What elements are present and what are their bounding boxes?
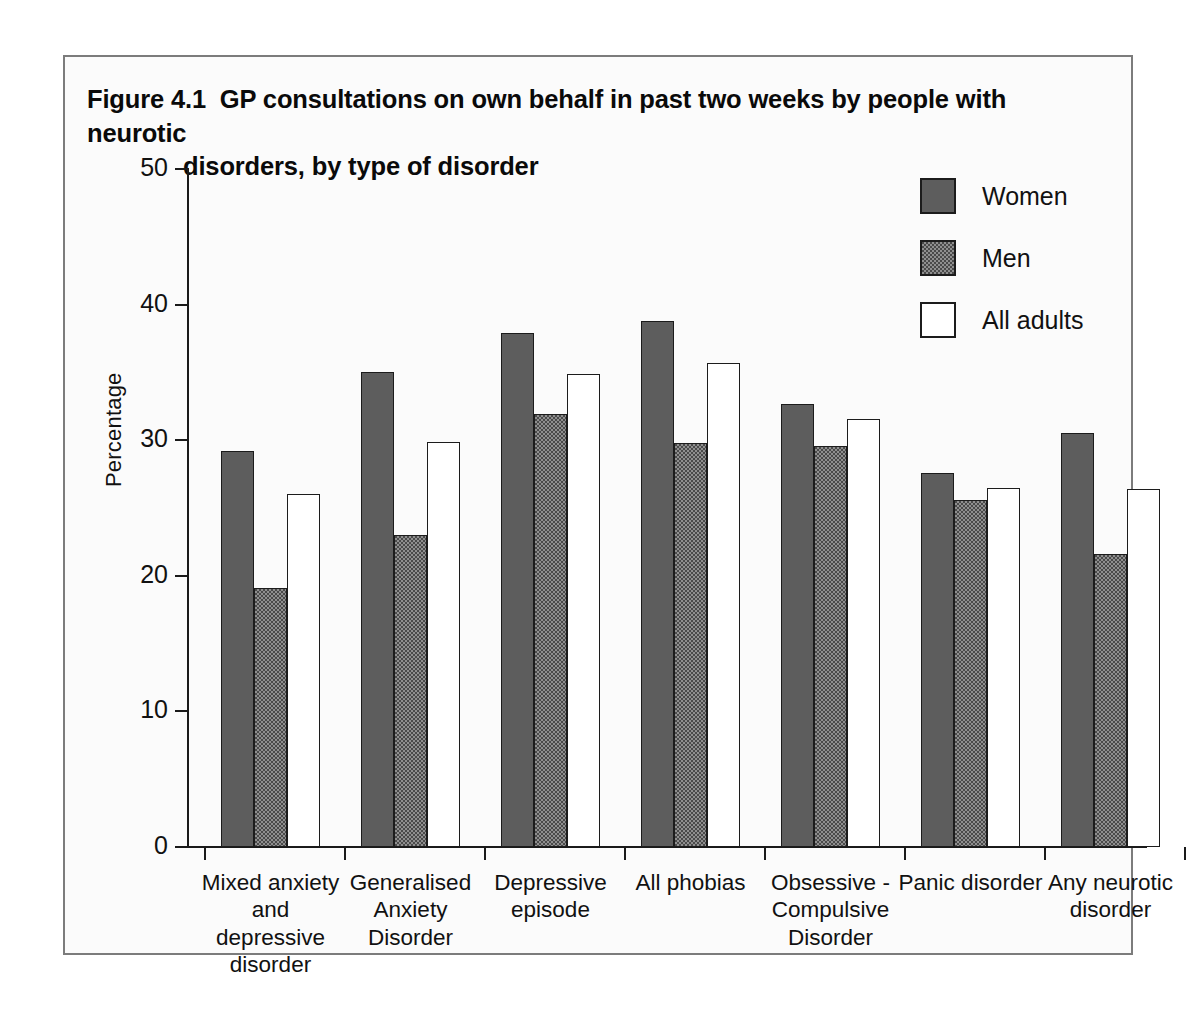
x-axis-tick bbox=[1044, 847, 1046, 860]
bar-women[interactable] bbox=[221, 451, 254, 847]
x-axis-category-label-line: disorder bbox=[176, 951, 366, 978]
y-axis-tick: 50 bbox=[175, 168, 187, 170]
y-axis-tick-label: 20 bbox=[140, 560, 168, 589]
x-axis-category-label-line: Disorder bbox=[316, 924, 506, 951]
y-axis-tick-label: 10 bbox=[140, 695, 168, 724]
bar-men[interactable] bbox=[254, 588, 287, 847]
figure-title-line1: GP consultations on own behalf in past t… bbox=[87, 85, 1006, 147]
x-axis-category-label-line: Compulsive bbox=[736, 896, 926, 923]
chart-legend: WomenMenAll adults bbox=[920, 165, 1083, 351]
bar-all-adults[interactable] bbox=[847, 419, 880, 847]
x-axis-category-label-line: Any neurotic bbox=[1016, 869, 1196, 896]
x-axis-tick bbox=[1184, 847, 1186, 860]
legend-item[interactable]: All adults bbox=[920, 289, 1083, 351]
x-axis-category-label: Any neuroticdisorder bbox=[1016, 869, 1196, 924]
x-axis-category-label-line: disorder bbox=[1016, 896, 1196, 923]
bar-women[interactable] bbox=[501, 333, 534, 847]
bar-men[interactable] bbox=[534, 414, 567, 847]
x-axis-tick bbox=[624, 847, 626, 860]
y-axis-tick-label: 0 bbox=[154, 831, 168, 860]
legend-item-label: Women bbox=[982, 182, 1068, 211]
bar-all-adults[interactable] bbox=[287, 494, 320, 847]
y-axis-title: Percentage bbox=[101, 372, 127, 487]
legend-item-label: Men bbox=[982, 244, 1031, 273]
bar-group bbox=[781, 169, 880, 847]
x-axis-tick bbox=[764, 847, 766, 860]
y-axis-tick-label: 30 bbox=[140, 424, 168, 453]
bar-group bbox=[501, 169, 600, 847]
bar-women[interactable] bbox=[641, 321, 674, 847]
x-axis-tick bbox=[904, 847, 906, 860]
x-axis-tick bbox=[344, 847, 346, 860]
y-axis-tick: 20 bbox=[175, 575, 187, 577]
bar-group bbox=[641, 169, 740, 847]
bar-women[interactable] bbox=[781, 404, 814, 847]
legend-item[interactable]: Men bbox=[920, 227, 1083, 289]
bar-men[interactable] bbox=[674, 443, 707, 847]
bar-men[interactable] bbox=[1094, 554, 1127, 847]
bar-group bbox=[221, 169, 320, 847]
y-axis-tick: 10 bbox=[175, 710, 187, 712]
hatched-gray-swatch bbox=[920, 240, 956, 276]
bar-women[interactable] bbox=[1061, 433, 1094, 847]
bar-all-adults[interactable] bbox=[427, 442, 460, 847]
y-axis-tick: 0 bbox=[175, 846, 187, 848]
x-axis-tick bbox=[204, 847, 206, 860]
bar-all-adults[interactable] bbox=[707, 363, 740, 847]
x-axis-category-label-line: Disorder bbox=[736, 924, 926, 951]
y-axis-tick-label: 50 bbox=[140, 153, 168, 182]
bar-all-adults[interactable] bbox=[987, 488, 1020, 847]
y-axis-line bbox=[187, 168, 189, 848]
bar-group bbox=[361, 169, 460, 847]
x-axis-category-label-line: episode bbox=[456, 896, 646, 923]
solid-gray-swatch bbox=[920, 178, 956, 214]
bar-all-adults[interactable] bbox=[1127, 489, 1160, 847]
bar-men[interactable] bbox=[394, 535, 427, 847]
bar-all-adults[interactable] bbox=[567, 374, 600, 847]
y-axis-tick: 30 bbox=[175, 439, 187, 441]
legend-item-label: All adults bbox=[982, 306, 1083, 335]
bar-men[interactable] bbox=[954, 500, 987, 847]
figure-frame: Figure 4.1 GP consultations on own behal… bbox=[63, 55, 1133, 955]
y-axis-tick: 40 bbox=[175, 304, 187, 306]
bar-men[interactable] bbox=[814, 446, 847, 847]
y-axis-tick-label: 40 bbox=[140, 289, 168, 318]
x-axis-tick bbox=[484, 847, 486, 860]
bar-women[interactable] bbox=[361, 372, 394, 847]
white-swatch bbox=[920, 302, 956, 338]
figure-number: Figure 4.1 bbox=[87, 85, 206, 113]
bar-women[interactable] bbox=[921, 473, 954, 847]
legend-item[interactable]: Women bbox=[920, 165, 1083, 227]
